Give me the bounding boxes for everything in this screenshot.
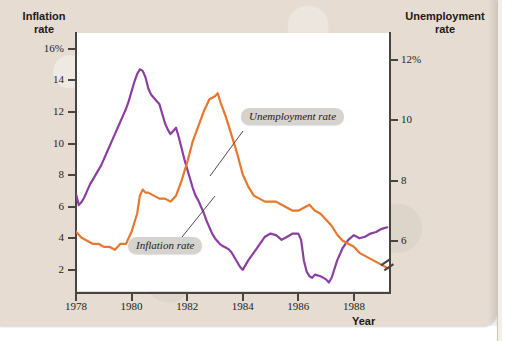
- figure-page: Inflation rate Unemployment rate Year 16…: [0, 0, 518, 341]
- axis-break-mark: [0, 0, 518, 341]
